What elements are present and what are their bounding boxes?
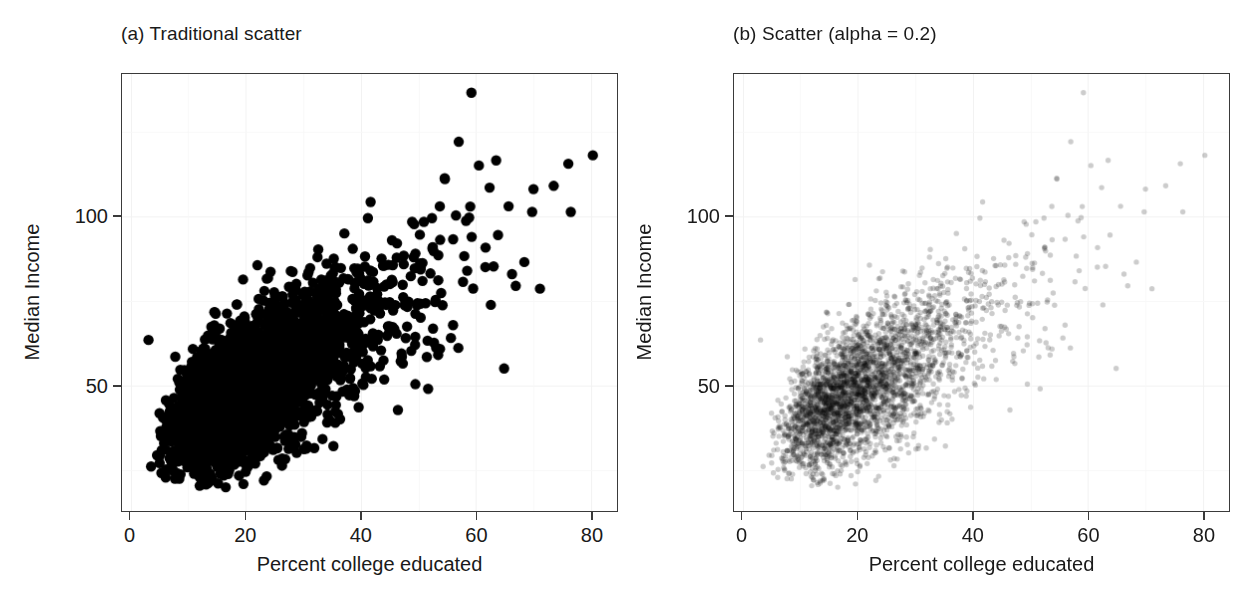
x-tick-mark — [1088, 512, 1090, 520]
y-tick-mark — [725, 385, 733, 387]
panel-b-scatter-points — [734, 74, 1229, 511]
panel-a-scatter-points — [122, 74, 617, 511]
y-tick-label: 50 — [698, 374, 720, 398]
y-tick-mark — [725, 215, 733, 217]
panel-b-title: (b) Scatter (alpha = 0.2) — [733, 22, 937, 46]
figure-container: (a) Traditional scatter 020406080 50100 … — [0, 0, 1257, 607]
x-tick-mark — [857, 512, 859, 520]
panel-b-plot-area — [733, 73, 1230, 512]
x-tick-label: 80 — [581, 523, 603, 547]
panel-b-y-tick-labels: 50100 — [612, 0, 720, 607]
x-tick-label: 40 — [350, 523, 372, 547]
panel-alpha-scatter: (b) Scatter (alpha = 0.2) 020406080 5010… — [612, 0, 1257, 607]
y-tick-label: 50 — [86, 374, 108, 398]
panel-traditional-scatter: (a) Traditional scatter 020406080 50100 … — [0, 0, 640, 607]
x-tick-mark — [360, 512, 362, 520]
x-tick-label: 60 — [465, 523, 487, 547]
x-tick-label: 60 — [1077, 523, 1099, 547]
x-tick-mark — [1203, 512, 1205, 520]
y-tick-label: 100 — [75, 204, 108, 228]
x-tick-label: 20 — [234, 523, 256, 547]
x-tick-label: 40 — [962, 523, 984, 547]
x-tick-mark — [972, 512, 974, 520]
x-tick-mark — [591, 512, 593, 520]
panel-a-x-axis-title: Percent college educated — [121, 552, 618, 576]
y-tick-label: 100 — [687, 204, 720, 228]
panel-b-y-axis-title: Median Income — [632, 224, 656, 361]
x-tick-label: 20 — [846, 523, 868, 547]
x-tick-mark — [476, 512, 478, 520]
x-tick-label: 0 — [124, 523, 135, 547]
panel-a-y-tick-labels: 50100 — [0, 0, 108, 607]
x-tick-mark — [129, 512, 131, 520]
panel-a-title: (a) Traditional scatter — [121, 22, 302, 46]
y-tick-mark — [113, 215, 121, 217]
panel-b-x-axis-title: Percent college educated — [733, 552, 1230, 576]
x-tick-label: 80 — [1193, 523, 1215, 547]
panel-a-y-axis-title: Median Income — [20, 224, 44, 361]
x-tick-mark — [741, 512, 743, 520]
x-tick-mark — [245, 512, 247, 520]
y-tick-mark — [113, 385, 121, 387]
x-tick-label: 0 — [736, 523, 747, 547]
panel-a-plot-area — [121, 73, 618, 512]
